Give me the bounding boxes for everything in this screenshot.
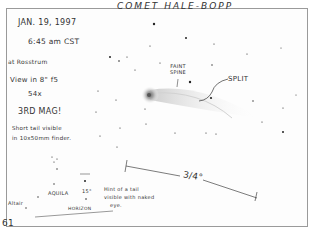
instrument-note: View in 8" f5	[10, 76, 58, 84]
magnitude-note: 3RD MAG!	[18, 107, 61, 116]
naked-eye-line2: visible with naked	[104, 194, 154, 200]
sketch-title: COMET HALE-BOPP	[117, 1, 233, 11]
split-label: SPLIT	[228, 75, 248, 83]
naked-eye-line3: eye.	[110, 202, 122, 208]
horizon-label: HORIZON	[68, 206, 91, 211]
altair-label: Altair	[8, 200, 23, 206]
page-number: 61	[2, 218, 14, 228]
observation-location: at Rosstrum	[8, 58, 48, 65]
aquila-label: AQUILA	[48, 190, 69, 196]
comet-drawing	[0, 0, 314, 233]
tail-note-line1: Short tail visible	[12, 125, 62, 131]
observation-date: JAN. 19, 1997	[18, 18, 76, 27]
naked-eye-line1: Hint of a tail	[104, 186, 139, 192]
faint-spine-label: FAINT SPINE	[170, 63, 186, 75]
magnification-note: 54x	[28, 90, 42, 98]
angle-label: 15°	[82, 188, 92, 194]
faint-spine-line2: SPINE	[170, 69, 186, 75]
observation-time: 6:45 am CST	[28, 37, 79, 46]
tail-note-line2: in 10x50mm finder.	[12, 135, 71, 141]
